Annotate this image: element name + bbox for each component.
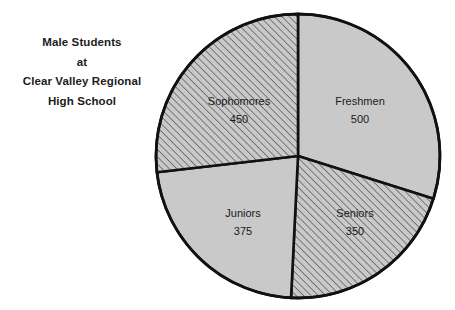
slice-label-sophomores-value: 450 <box>208 110 270 128</box>
slice-label-freshmen: Freshmen 500 <box>335 92 385 128</box>
slice-label-juniors-value: 375 <box>225 222 260 240</box>
slice-label-freshmen-name: Freshmen <box>335 92 385 110</box>
slice-label-seniors-name: Seniors <box>336 204 373 222</box>
slice-label-seniors: Seniors 350 <box>336 204 373 240</box>
pie-svg <box>0 0 455 310</box>
slice-label-sophomores-name: Sophomores <box>208 92 270 110</box>
pie-slices <box>156 14 440 298</box>
slice-label-sophomores: Sophomores 450 <box>208 92 270 128</box>
slice-label-juniors-name: Juniors <box>225 204 260 222</box>
slice-label-seniors-value: 350 <box>336 222 373 240</box>
slice-label-juniors: Juniors 375 <box>225 204 260 240</box>
slice-label-freshmen-value: 500 <box>335 110 385 128</box>
pie-chart-figure: Male Students at Clear Valley Regional H… <box>0 0 455 310</box>
